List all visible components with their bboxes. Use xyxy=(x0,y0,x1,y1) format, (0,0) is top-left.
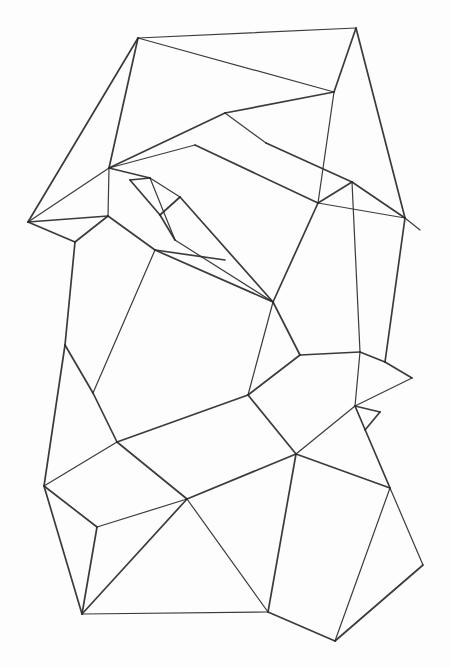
mesh-edge xyxy=(65,242,75,345)
mesh-edge xyxy=(385,362,412,378)
mesh-edge xyxy=(360,352,385,362)
mesh-edge xyxy=(109,38,138,168)
mesh-edge xyxy=(117,442,187,499)
mesh-edge xyxy=(28,168,109,222)
mesh-edge xyxy=(268,454,296,612)
mesh-edge xyxy=(355,352,360,406)
mesh-edge xyxy=(195,145,318,203)
mesh-edge xyxy=(352,182,360,352)
mesh-edge xyxy=(28,216,108,222)
mesh-edge xyxy=(93,393,117,442)
mesh-edge xyxy=(160,197,180,215)
mesh-edge xyxy=(28,222,75,242)
mesh-edge xyxy=(44,486,82,614)
mesh-edge xyxy=(108,216,155,250)
mesh-edge xyxy=(109,168,150,178)
mesh-edge xyxy=(65,345,93,393)
mesh-edge xyxy=(390,488,423,565)
mesh-edge xyxy=(334,28,356,92)
mesh-edge xyxy=(365,412,380,430)
mesh-edge xyxy=(405,218,420,230)
mesh-edge xyxy=(300,352,360,355)
mesh-edge xyxy=(355,378,412,406)
mesh-edge xyxy=(44,486,97,527)
mesh-edge xyxy=(82,612,268,614)
mesh-edge xyxy=(225,92,334,113)
mesh-edge xyxy=(138,38,334,92)
mesh-edge xyxy=(160,215,175,240)
mesh-edge xyxy=(225,113,266,143)
mesh-edge xyxy=(318,92,334,203)
mesh-edge xyxy=(130,180,160,215)
mesh-edge xyxy=(268,612,335,641)
mesh-edge xyxy=(44,442,117,486)
mesh-edge xyxy=(82,499,187,614)
mesh-edge xyxy=(28,38,138,222)
mesh-edge xyxy=(187,499,268,612)
mesh-edge xyxy=(318,182,352,203)
polygon-mesh-drawing xyxy=(0,0,450,668)
mesh-edge xyxy=(150,178,180,197)
mesh-edge xyxy=(248,355,300,395)
mesh-edge xyxy=(44,345,65,486)
mesh-edge xyxy=(355,406,380,412)
sketch-canvas: Pencil sketch of a polygonal mesh xyxy=(0,0,450,668)
mesh-edge xyxy=(266,143,352,182)
mesh-edge xyxy=(130,178,150,180)
mesh-edge xyxy=(175,240,273,302)
mesh-edge xyxy=(385,218,405,362)
mesh-edge xyxy=(180,197,273,302)
mesh-edge xyxy=(187,454,296,499)
mesh-edge xyxy=(109,113,225,168)
mesh-edge xyxy=(93,250,155,393)
mesh-edge xyxy=(296,454,390,488)
mesh-edge xyxy=(138,28,356,38)
mesh-edge xyxy=(248,302,273,395)
mesh-edge xyxy=(355,406,390,488)
mesh-edge xyxy=(318,203,405,218)
mesh-edge xyxy=(296,406,355,454)
mesh-edge xyxy=(75,216,108,242)
mesh-edge xyxy=(273,203,318,302)
mesh-edge xyxy=(108,168,109,216)
mesh-edge xyxy=(273,302,300,355)
mesh-edge xyxy=(248,395,296,454)
mesh-edge xyxy=(117,395,248,442)
